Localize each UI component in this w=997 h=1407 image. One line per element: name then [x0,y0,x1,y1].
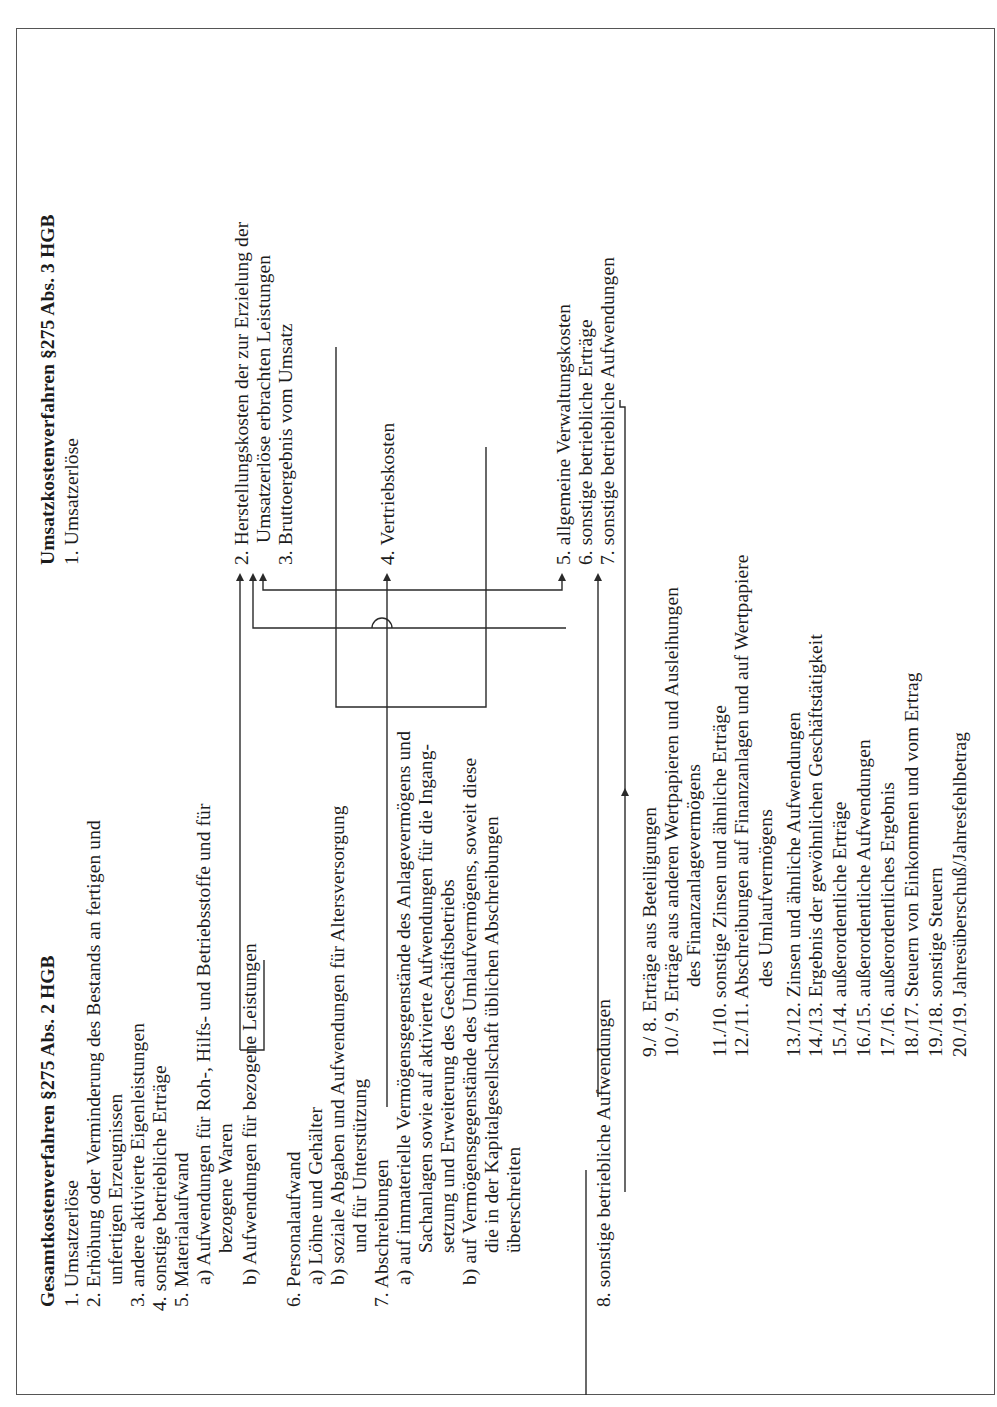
common-item-15: 15./14. außerordentliche Erträge [830,801,850,1057]
arrow-to-4 [383,573,391,581]
right-item-2: 2. Herstellungskosten der zur Erzielung … [232,222,252,565]
arrow-to-3 [259,573,267,581]
rotated-page: Gesamtkostenverfahren §275 Abs. 2 HGB 1.… [0,0,997,1407]
left-item-5b: b) Aufwendungen für bezogene Leistungen [240,943,260,1285]
left-item-7a-cont2: setzung und Erweiterung des Geschäftsbet… [438,879,458,1253]
left-item-4: 4. sonstige betriebliche Erträge [150,1065,170,1311]
common-item-19: 19./18. sonstige Steuern [926,867,946,1057]
common-item-12-cont: des Umlaufvermögens [756,809,776,987]
conn-7-right [620,400,625,790]
arrow-to-5 [558,573,566,581]
left-item-7: 7. Abschreibungen [372,1159,392,1307]
left-item-2-cont: unfertigen Erzeugnissen [106,1094,126,1285]
left-item-7b: b) auf Vermögensgegenstände des Umlaufve… [460,758,480,1285]
common-item-17: 17./16. außerordentliches Ergebnis [878,782,898,1057]
left-item-8: 8. sonstige betriebliche Aufwendungen [594,999,614,1307]
left-item-6a: a) Löhne und Gehälter [306,1107,326,1285]
left-item-2: 2. Erhöhung oder Verminderung des Bestan… [84,820,104,1307]
arrow-to-2 [236,573,244,581]
conn-3-to-5 [263,575,562,590]
right-item-4: 4. Vertriebskosten [378,423,398,565]
common-item-13: 13./12. Zinsen und ähnliche Aufwendungen [784,712,804,1057]
right-header: Umsatzkostenverfahren §275 Abs. 3 HGB [38,214,58,565]
left-item-7a-cont1: Sachanlagen sowie auf aktivierte Aufwend… [416,744,436,1253]
left-item-5a: a) Aufwendungen für Roh-, Hilfs- und Bet… [194,803,214,1285]
common-item-10-cont: des Finanzanlagevermögens [684,764,704,987]
conn-6-box [336,347,486,707]
right-item-2-cont: Umsatzerlöse erbrachten Leistungen [254,255,274,543]
common-item-16: 16./15. außerordentliche Aufwendungen [854,739,874,1057]
arrow-to-6 [594,573,602,581]
right-item-3: 3. Bruttoergebnis vom Umsatz [276,323,296,565]
left-item-5: 5. Materialaufwand [172,1153,192,1308]
common-item-10: 10./ 9. Erträge aus anderen Wertpapieren… [662,587,682,1057]
arrow-to-2b [249,573,257,581]
left-item-7b-cont1: die in der Kapitalgesellschaft üblichen … [482,816,502,1253]
left-item-3: 3. andere aktivierte Eigenleistungen [128,1023,148,1307]
hop-arc [372,618,392,628]
left-item-6: 6. Personalaufwand [284,1151,304,1307]
left-header: Gesamtkostenverfahren §275 Abs. 2 HGB [38,955,58,1307]
common-item-14: 14./13. Ergebnis der gewöhnlichen Geschä… [806,634,826,1057]
left-item-5a-cont: bezogene Waren [216,1123,236,1253]
conn-7-to-2 [253,575,566,628]
left-item-7b-cont2: überschreiten [504,1147,524,1253]
common-item-11: 11./10. sonstige Zinsen und ähnliche Ert… [710,705,730,1057]
common-item-18: 18./17. Steuern von Einkommen und vom Er… [902,672,922,1057]
right-item-5: 5. allgemeine Verwaltungskosten [554,304,574,565]
right-item-1: 1. Umsatzerlöse [62,438,82,565]
common-item-9: 9./ 8. Erträge aus Beteiligungen [640,807,660,1057]
left-item-1: 1. Umsatzerlöse [62,1180,82,1307]
common-item-20: 20./19. Jahresüberschuß/Jahresfehlbetrag [950,732,970,1057]
left-item-6b: b) soziale Abgaben und Aufwendungen für … [328,805,348,1285]
common-item-12: 12./11. Abschreibungen auf Finanzanlagen… [732,554,752,1057]
right-item-7: 7. sonstige betriebliche Aufwendungen [598,257,618,565]
right-item-6: 6. sonstige betriebliche Erträge [576,319,596,565]
left-item-6b-cont: und für Unterstützung [350,1079,370,1253]
left-item-7a: a) auf immaterielle Vermögensgegenstände… [394,731,414,1285]
